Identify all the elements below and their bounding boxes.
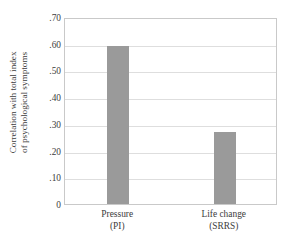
y-axis-title: Correlation with total index of psycholo… [2,0,36,205]
x-axis-category-label-line-2: (SRRS) [171,221,278,233]
plot-area [64,18,277,205]
y-axis-tick-label: .50 [33,66,61,76]
bar [214,132,236,204]
bars-layer [65,19,276,204]
x-axis-category-label-line-1: Life change [171,209,278,221]
x-axis-category-label-line-2: (PI) [64,221,171,233]
y-axis-tick-label: .10 [33,173,61,183]
x-axis-tick-labels: Pressure(PI)Life change(SRRS) [64,206,277,242]
x-axis-category-label: Pressure(PI) [64,209,171,232]
y-axis-title-line-1: Correlation with total index [8,52,19,154]
y-axis-tick-label: .70 [33,13,61,23]
y-axis-title-line-2: of psychological symptoms [19,52,30,154]
y-axis-tick-label: 0 [33,200,61,210]
y-axis-tick-labels: .70.60.50.40.30.20.100 [33,0,61,205]
bar [107,46,129,204]
y-axis-tick-label: .30 [33,120,61,130]
bar-chart-figure: Correlation with total index of psycholo… [0,0,289,242]
y-axis-tick-label: .60 [33,40,61,50]
x-axis-category-label-line-1: Pressure [64,209,171,221]
x-axis-category-label: Life change(SRRS) [171,209,278,232]
y-axis-tick-label: .40 [33,93,61,103]
y-axis-tick-label: .20 [33,147,61,157]
